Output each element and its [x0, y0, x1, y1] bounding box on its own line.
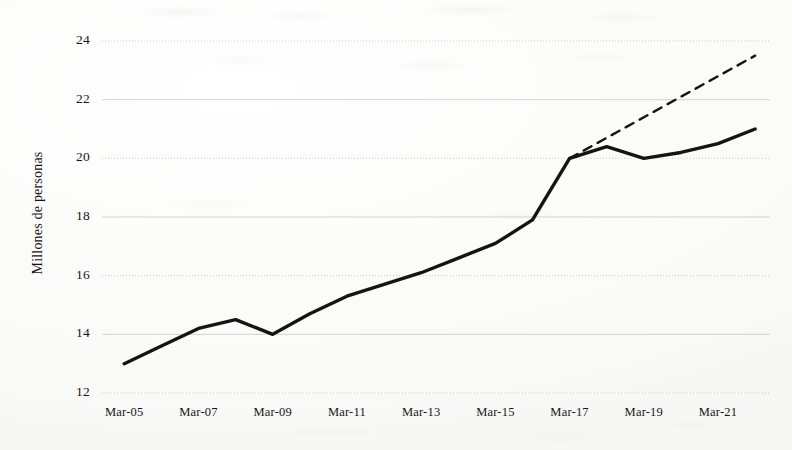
x-tick-label: Mar-09 — [238, 405, 308, 420]
y-tick-label: 12 — [50, 384, 90, 400]
y-tick-label: 24 — [50, 32, 90, 48]
y-tick-label: 16 — [50, 267, 90, 283]
x-tick-label: Mar-05 — [89, 405, 159, 420]
chart-plot-area — [0, 0, 792, 450]
series-group — [124, 56, 755, 364]
y-axis-title: Millones de personas — [30, 113, 46, 313]
y-tick-label: 22 — [50, 91, 90, 107]
line-chart: 24222018161412 Mar-05Mar-07Mar-09Mar-11M… — [0, 0, 792, 450]
trend-line — [570, 56, 756, 159]
y-tick-label: 14 — [50, 325, 90, 341]
x-tick-label: Mar-13 — [386, 405, 456, 420]
y-tick-label: 18 — [50, 208, 90, 224]
x-tick-label: Mar-19 — [609, 405, 679, 420]
scanned-page: 24222018161412 Mar-05Mar-07Mar-09Mar-11M… — [0, 0, 792, 450]
gridlines-group — [102, 41, 770, 393]
y-tick-label: 20 — [50, 149, 90, 165]
x-tick-label: Mar-21 — [683, 405, 753, 420]
data-line — [124, 129, 755, 364]
x-tick-label: Mar-17 — [535, 405, 605, 420]
x-tick-label: Mar-11 — [312, 405, 382, 420]
x-tick-label: Mar-07 — [163, 405, 233, 420]
x-tick-label: Mar-15 — [460, 405, 530, 420]
